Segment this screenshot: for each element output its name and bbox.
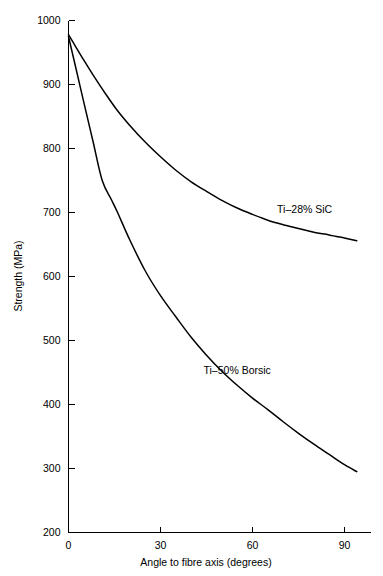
y-tick-label: 400: [43, 398, 61, 410]
series-annotations: Ti–28% SiCTi–50% Borsic: [204, 203, 333, 376]
series-annotation-label: Ti–50% Borsic: [204, 364, 271, 376]
y-tick-label: 700: [43, 206, 61, 218]
y-tick-label: 1000: [37, 14, 61, 26]
y-tick-label: 900: [43, 78, 61, 90]
y-tick-label: 600: [43, 270, 61, 282]
series-annotation-label: Ti–28% SiC: [277, 203, 332, 215]
axes-group: [69, 21, 371, 533]
chart-figure: 2003004005006007008009001000 0306090 Ti–…: [0, 0, 383, 576]
y-tick-label: 800: [43, 142, 61, 154]
x-tick-label: 0: [66, 539, 72, 551]
x-tick-label: 90: [339, 539, 351, 551]
y-tick-label: 200: [43, 526, 61, 538]
x-tick-label: 60: [247, 539, 259, 551]
x-axis-title: Angle to fibre axis (degrees): [140, 556, 271, 568]
y-axis-title: Strength (MPa): [12, 240, 24, 311]
x-axis-ticks: 0306090: [66, 527, 351, 551]
x-tick-label: 30: [155, 539, 167, 551]
y-tick-label: 500: [43, 334, 61, 346]
series-layer: [69, 35, 357, 472]
y-tick-label: 300: [43, 462, 61, 474]
line-chart-canvas: 2003004005006007008009001000 0306090 Ti–…: [0, 0, 383, 576]
